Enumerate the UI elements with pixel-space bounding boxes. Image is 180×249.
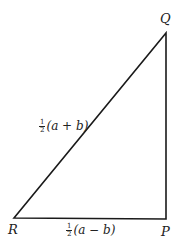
base-expr: (a − b) [73,223,115,237]
fraction-half: 12 [66,223,72,238]
triangle-diagram: Q R P 12(a + b) 12(a − b) [0,0,180,249]
vertex-label-p: P [161,225,170,238]
fraction-half: 12 [39,119,45,134]
triangle-shape [0,0,180,249]
hypotenuse-label: 12(a + b) [39,119,88,134]
vertex-label-r: R [8,223,18,236]
base-label: 12(a − b) [66,223,115,238]
vertex-label-q: Q [160,12,171,25]
hypotenuse-expr: (a + b) [46,119,88,133]
